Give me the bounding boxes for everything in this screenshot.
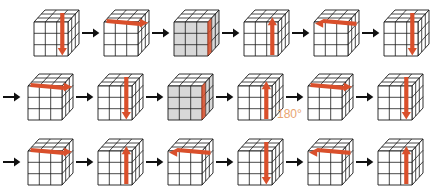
sequence-row-1	[0, 2, 441, 64]
sequence-row-3	[0, 131, 441, 193]
step-2-3[interactable]	[164, 68, 216, 126]
flow-arrow-2-3	[216, 90, 234, 104]
flow-arrow-1-3	[222, 26, 240, 40]
step-1-1[interactable]	[30, 4, 82, 62]
step-2-2[interactable]	[94, 68, 146, 126]
flow-arrow-1-2	[152, 26, 170, 40]
rotation-angle-label: 180°	[277, 107, 302, 121]
step-1-4[interactable]	[240, 4, 292, 62]
sequence-row-2	[0, 66, 441, 128]
step-3-5[interactable]	[304, 133, 356, 191]
step-2-1[interactable]	[24, 68, 76, 126]
step-1-2[interactable]	[100, 4, 152, 62]
step-3-3[interactable]	[164, 133, 216, 191]
flow-arrow-lead	[0, 155, 24, 169]
flow-arrow-3-4	[286, 155, 304, 169]
flow-arrow-2-5	[356, 90, 374, 104]
step-3-6[interactable]	[374, 133, 426, 191]
flow-arrow-3-5	[356, 155, 374, 169]
step-3-4[interactable]	[234, 133, 286, 191]
flow-arrow-3-2	[146, 155, 164, 169]
flow-arrow-2-4	[286, 90, 304, 104]
flow-arrow-3-3	[216, 155, 234, 169]
step-1-5[interactable]	[310, 4, 362, 62]
step-2-5[interactable]	[304, 68, 356, 126]
cube-move-sequence-figure: 180°	[0, 0, 441, 194]
step-1-3[interactable]	[170, 4, 222, 62]
step-3-2[interactable]	[94, 133, 146, 191]
flow-arrow-1-1	[82, 26, 100, 40]
flow-arrow-2-1	[76, 90, 94, 104]
step-1-6[interactable]	[380, 4, 432, 62]
row-lead-spacer	[0, 33, 30, 34]
flow-arrow-lead	[0, 90, 24, 104]
step-3-1[interactable]	[24, 133, 76, 191]
flow-arrow-1-5	[362, 26, 380, 40]
flow-arrow-2-2	[146, 90, 164, 104]
flow-arrow-3-1	[76, 155, 94, 169]
step-2-6[interactable]	[374, 68, 426, 126]
flow-arrow-1-4	[292, 26, 310, 40]
